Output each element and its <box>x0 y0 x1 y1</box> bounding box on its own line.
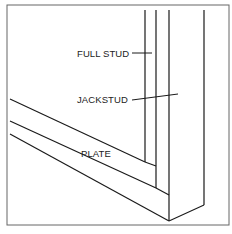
jackstud-leader <box>132 94 178 100</box>
plate-end-mid <box>156 188 169 195</box>
stud-and-plate-lines <box>10 10 204 221</box>
full-stud-label: FULL STUD <box>77 48 129 59</box>
figure-border <box>7 5 229 225</box>
jackstud-base-edge <box>169 205 204 221</box>
diagram-canvas: FULL STUD JACKSTUD PLATE <box>0 0 232 234</box>
plate-label: PLATE <box>81 148 111 159</box>
jackstud-label: JACKSTUD <box>77 94 128 105</box>
framing-diagram: FULL STUD JACKSTUD PLATE <box>0 0 232 234</box>
plate-end-top <box>145 162 156 166</box>
